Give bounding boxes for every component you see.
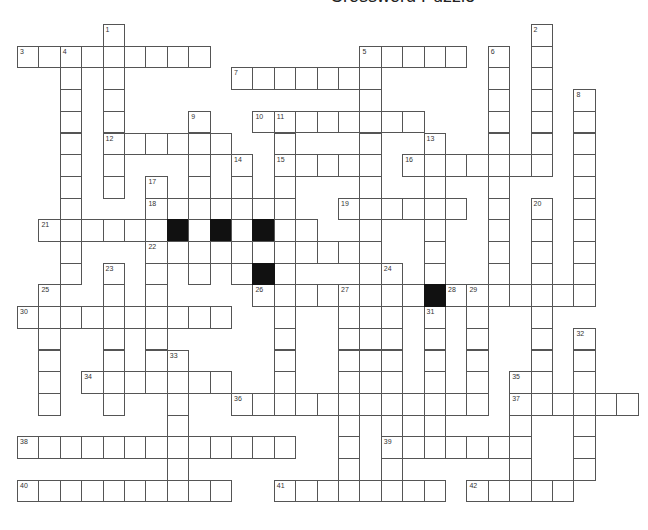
- grid-cell[interactable]: [573, 436, 595, 459]
- grid-cell[interactable]: [188, 176, 210, 199]
- grid-cell[interactable]: [531, 371, 553, 394]
- grid-cell[interactable]: 29: [466, 284, 488, 307]
- grid-cell[interactable]: [252, 67, 274, 90]
- grid-cell[interactable]: 21: [38, 219, 60, 242]
- grid-cell[interactable]: [103, 219, 125, 242]
- grid-cell[interactable]: [338, 480, 360, 503]
- grid-cell[interactable]: [552, 480, 574, 503]
- grid-cell[interactable]: [381, 415, 403, 438]
- grid-cell[interactable]: [81, 436, 103, 459]
- grid-cell[interactable]: [103, 350, 125, 373]
- grid-cell[interactable]: [274, 241, 296, 264]
- grid-cell[interactable]: [424, 241, 446, 264]
- grid-cell[interactable]: [231, 176, 253, 199]
- grid-cell[interactable]: [488, 176, 510, 199]
- grid-cell[interactable]: [252, 436, 274, 459]
- grid-cell[interactable]: [252, 241, 274, 264]
- grid-cell[interactable]: [381, 306, 403, 329]
- grid-cell[interactable]: [38, 371, 60, 394]
- grid-cell[interactable]: [381, 284, 403, 307]
- grid-cell[interactable]: [488, 241, 510, 264]
- grid-cell[interactable]: [167, 133, 189, 156]
- grid-cell[interactable]: [124, 46, 146, 69]
- grid-cell[interactable]: [531, 328, 553, 351]
- grid-cell[interactable]: [60, 176, 82, 199]
- grid-cell[interactable]: [317, 284, 339, 307]
- grid-cell[interactable]: [231, 263, 253, 286]
- grid-cell[interactable]: [573, 284, 595, 307]
- grid-cell[interactable]: [573, 154, 595, 177]
- grid-cell[interactable]: [359, 154, 381, 177]
- grid-cell[interactable]: [509, 284, 531, 307]
- grid-cell[interactable]: [274, 198, 296, 221]
- grid-cell[interactable]: 15: [274, 154, 296, 177]
- grid-cell[interactable]: 13: [424, 133, 446, 156]
- grid-cell[interactable]: [60, 154, 82, 177]
- grid-cell[interactable]: [466, 154, 488, 177]
- grid-cell[interactable]: [210, 198, 232, 221]
- grid-cell[interactable]: [338, 458, 360, 481]
- grid-cell[interactable]: [359, 263, 381, 286]
- grid-cell[interactable]: 23: [103, 263, 125, 286]
- grid-cell[interactable]: [103, 67, 125, 90]
- grid-cell[interactable]: [573, 241, 595, 264]
- grid-cell[interactable]: [509, 458, 531, 481]
- grid-cell[interactable]: [381, 328, 403, 351]
- grid-cell[interactable]: 38: [17, 436, 39, 459]
- grid-cell[interactable]: [124, 371, 146, 394]
- grid-cell[interactable]: [295, 67, 317, 90]
- grid-cell[interactable]: [466, 393, 488, 416]
- grid-cell[interactable]: [359, 480, 381, 503]
- grid-cell[interactable]: [60, 198, 82, 221]
- grid-cell[interactable]: [424, 480, 446, 503]
- grid-cell[interactable]: [167, 46, 189, 69]
- grid-cell[interactable]: [167, 415, 189, 438]
- grid-cell[interactable]: [103, 154, 125, 177]
- grid-cell[interactable]: [38, 46, 60, 69]
- grid-cell[interactable]: 5: [359, 46, 381, 69]
- grid-cell[interactable]: [424, 415, 446, 438]
- grid-cell[interactable]: [466, 350, 488, 373]
- grid-cell[interactable]: [317, 393, 339, 416]
- grid-cell[interactable]: [38, 393, 60, 416]
- grid-cell[interactable]: [38, 480, 60, 503]
- grid-cell[interactable]: [295, 219, 317, 242]
- grid-cell[interactable]: [274, 436, 296, 459]
- grid-cell[interactable]: [381, 393, 403, 416]
- grid-cell[interactable]: 3: [17, 46, 39, 69]
- grid-cell[interactable]: [381, 111, 403, 134]
- grid-cell[interactable]: [552, 393, 574, 416]
- grid-cell[interactable]: [359, 111, 381, 134]
- grid-cell[interactable]: [424, 219, 446, 242]
- grid-cell[interactable]: [424, 46, 446, 69]
- grid-cell[interactable]: 17: [145, 176, 167, 199]
- grid-cell[interactable]: [295, 480, 317, 503]
- grid-cell[interactable]: 18: [145, 198, 167, 221]
- grid-cell[interactable]: [81, 480, 103, 503]
- grid-cell[interactable]: [188, 306, 210, 329]
- grid-cell[interactable]: [402, 198, 424, 221]
- grid-cell[interactable]: 20: [531, 198, 553, 221]
- grid-cell[interactable]: [145, 219, 167, 242]
- grid-cell[interactable]: [381, 46, 403, 69]
- grid-cell[interactable]: [317, 154, 339, 177]
- grid-cell[interactable]: [338, 154, 360, 177]
- grid-cell[interactable]: [488, 219, 510, 242]
- grid-cell[interactable]: 32: [573, 328, 595, 351]
- grid-cell[interactable]: [317, 241, 339, 264]
- grid-cell[interactable]: [402, 436, 424, 459]
- grid-cell[interactable]: [359, 284, 381, 307]
- grid-cell[interactable]: [38, 350, 60, 373]
- grid-cell[interactable]: [60, 219, 82, 242]
- grid-cell[interactable]: [124, 133, 146, 156]
- grid-cell[interactable]: [488, 111, 510, 134]
- grid-cell[interactable]: [359, 306, 381, 329]
- grid-cell[interactable]: [402, 393, 424, 416]
- grid-cell[interactable]: [317, 480, 339, 503]
- grid-cell[interactable]: [60, 67, 82, 90]
- grid-cell[interactable]: [60, 89, 82, 112]
- grid-cell[interactable]: [573, 350, 595, 373]
- grid-cell[interactable]: [573, 371, 595, 394]
- grid-cell[interactable]: [103, 46, 125, 69]
- grid-cell[interactable]: [552, 284, 574, 307]
